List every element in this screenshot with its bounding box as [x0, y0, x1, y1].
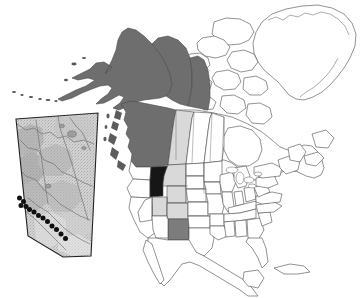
region-indiana [234, 191, 244, 206]
region-kansas [188, 202, 208, 216]
region-arkansas [210, 214, 224, 226]
region-ohio [244, 187, 256, 202]
distribution-map-figure: North America distribution map with Albe… [0, 0, 361, 298]
region-colorado [167, 203, 188, 219]
region-missouri [206, 194, 224, 214]
region-north-dakota [186, 163, 204, 176]
region-utah [152, 197, 167, 216]
region-alabama [235, 220, 247, 237]
region-new-mexico [168, 219, 189, 240]
region-wyoming [167, 186, 186, 203]
north-america-map [0, 0, 361, 298]
region-nebraska [186, 189, 206, 202]
region-mississippi [224, 221, 235, 237]
region-oklahoma [188, 216, 210, 228]
region-iowa [204, 182, 221, 194]
region-south-dakota [186, 176, 204, 189]
region-minnesota [204, 161, 222, 182]
